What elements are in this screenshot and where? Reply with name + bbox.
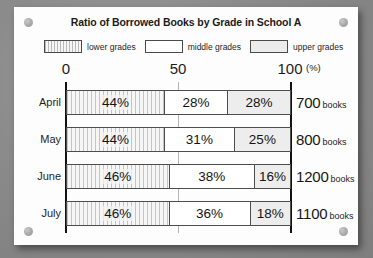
bar-segment-value: 28% bbox=[182, 95, 209, 110]
legend-item-lower-grades: lower grades bbox=[44, 40, 136, 53]
row-total: 1200books bbox=[296, 158, 355, 195]
x-axis-tick-50: 50 bbox=[170, 59, 187, 79]
bar-segment-middle: 31% bbox=[165, 127, 235, 152]
bar-segment-value: 46% bbox=[103, 206, 132, 221]
chart-row: June46%38%16%1200books bbox=[28, 158, 344, 195]
legend-label-lower-grades: lower grades bbox=[87, 42, 136, 52]
row-total: 800books bbox=[296, 121, 346, 158]
chart-legend: lower grades middle grades upper grades bbox=[44, 40, 343, 53]
chart-rows: April44%28%28%700booksMay44%31%25%800boo… bbox=[28, 84, 344, 232]
chart-row: April44%28%28%700books bbox=[28, 84, 344, 121]
chart-title: Ratio of Borrowed Books by Grade in Scho… bbox=[14, 16, 358, 28]
x-axis-tick-0: 0 bbox=[62, 59, 70, 79]
bar-segment-value: 25% bbox=[249, 132, 276, 147]
row-total-value: 1100 bbox=[296, 205, 327, 222]
row-label: June bbox=[28, 158, 61, 195]
bar-segment-value: 46% bbox=[103, 169, 132, 184]
bar-segment-upper: 18% bbox=[251, 201, 292, 226]
row-total-unit: books bbox=[322, 100, 346, 110]
row-label: May bbox=[28, 121, 61, 158]
bar-segment-lower: 44% bbox=[66, 127, 165, 152]
legend-swatch-middle-grades-icon bbox=[145, 40, 183, 53]
bar-segment-upper: 16% bbox=[255, 164, 291, 189]
stacked-bar: 46%38%16% bbox=[66, 164, 291, 189]
bar-segment-value: 28% bbox=[245, 95, 272, 110]
row-label: April bbox=[28, 84, 61, 121]
bar-segment-value: 44% bbox=[101, 132, 130, 147]
legend-swatch-upper-grades-icon bbox=[250, 40, 288, 53]
bar-segment-value: 38% bbox=[198, 169, 225, 184]
bar-segment-value: 16% bbox=[259, 169, 286, 184]
bar-segment-middle: 28% bbox=[165, 90, 228, 115]
bar-segment-middle: 36% bbox=[170, 201, 251, 226]
row-total-value: 1200 bbox=[296, 168, 329, 185]
bar-segment-lower: 46% bbox=[66, 164, 170, 189]
bar-segment-upper: 25% bbox=[235, 127, 291, 152]
stacked-bar: 46%36%18% bbox=[66, 201, 291, 226]
row-total-unit: books bbox=[322, 137, 346, 147]
bar-segment-value: 44% bbox=[101, 95, 130, 110]
legend-item-middle-grades: middle grades bbox=[145, 40, 241, 53]
row-total-value: 800 bbox=[296, 131, 320, 148]
x-axis-unit-label: (%) bbox=[306, 62, 321, 73]
bar-segment-value: 18% bbox=[257, 206, 284, 221]
bar-segment-lower: 44% bbox=[66, 90, 165, 115]
bar-segment-value: 36% bbox=[196, 206, 223, 221]
legend-label-middle-grades: middle grades bbox=[188, 42, 241, 52]
legend-swatch-lower-grades-icon bbox=[44, 40, 82, 53]
stacked-bar: 44%31%25% bbox=[66, 127, 291, 152]
chart-row: July46%36%18%1100books bbox=[28, 195, 344, 232]
row-label: July bbox=[28, 195, 61, 232]
row-total-value: 700 bbox=[296, 94, 320, 111]
legend-label-upper-grades: upper grades bbox=[293, 42, 343, 52]
row-total-unit: books bbox=[329, 211, 353, 221]
row-total: 700books bbox=[296, 84, 346, 121]
chart-row: May44%31%25%800books bbox=[28, 121, 344, 158]
x-axis-tick-labels: 0 50 100 (%) bbox=[28, 59, 344, 81]
bar-segment-value: 31% bbox=[186, 132, 213, 147]
bar-segment-middle: 38% bbox=[170, 164, 256, 189]
stacked-bar: 44%28%28% bbox=[66, 90, 291, 115]
legend-item-upper-grades: upper grades bbox=[250, 40, 343, 53]
bar-segment-upper: 28% bbox=[228, 90, 291, 115]
bar-segment-lower: 46% bbox=[66, 201, 170, 226]
chart-plot-area: 0 50 100 (%) April44%28%28%700booksMay44… bbox=[28, 59, 344, 235]
chart-card: Ratio of Borrowed Books by Grade in Scho… bbox=[14, 7, 358, 245]
row-total-unit: books bbox=[331, 174, 355, 184]
row-total: 1100books bbox=[296, 195, 354, 232]
x-axis-tick-100: 100 bbox=[277, 59, 302, 79]
